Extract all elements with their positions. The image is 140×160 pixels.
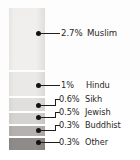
label-jewish: 0.5%Jewish [59, 108, 111, 117]
label-buddhist-name: Buddhist [85, 121, 121, 130]
label-muslim-name: Muslim [87, 29, 117, 38]
callout-segment-buddhist-v [55, 125, 56, 131]
bar-segment-sikh[interactable] [9, 98, 45, 111]
stacked-bar-column [9, 8, 45, 150]
label-sikh: 0.6%Sikh [59, 95, 102, 104]
bar-segment-jewish[interactable] [9, 113, 45, 124]
bar-segment-other[interactable] [9, 138, 45, 150]
label-muslim: 2.7%Muslim [61, 29, 117, 38]
bar-segment-buddhist[interactable] [9, 126, 45, 136]
label-sikh-name: Sikh [85, 95, 102, 104]
label-muslim-pct: 2.7% [61, 29, 84, 38]
label-buddhist: 0.3%Buddhist [59, 121, 121, 130]
label-jewish-name: Jewish [85, 108, 111, 117]
label-hindu-pct: 1% [61, 81, 77, 90]
label-buddhist-pct: 0.3% [59, 121, 83, 130]
label-hindu: 1%Hindu [61, 81, 110, 90]
stacked-bar-chart: 2.7%Muslim 1%Hindu 0.6%Sikh 0.5%Jewish 0… [0, 0, 140, 160]
label-hindu-name: Hindu [86, 81, 110, 90]
bar-segment-hindu[interactable] [9, 72, 45, 96]
callout-segment-jewish-v [55, 112, 56, 118]
label-other-pct: 0.3% [59, 138, 83, 147]
callout-segment-sikh-v [55, 99, 56, 106]
label-jewish-pct: 0.5% [59, 108, 83, 117]
label-sikh-pct: 0.6% [59, 95, 83, 104]
bar-segment-muslim[interactable] [9, 8, 45, 70]
label-other: 0.3%Other [59, 138, 108, 147]
label-other-name: Other [85, 138, 108, 147]
